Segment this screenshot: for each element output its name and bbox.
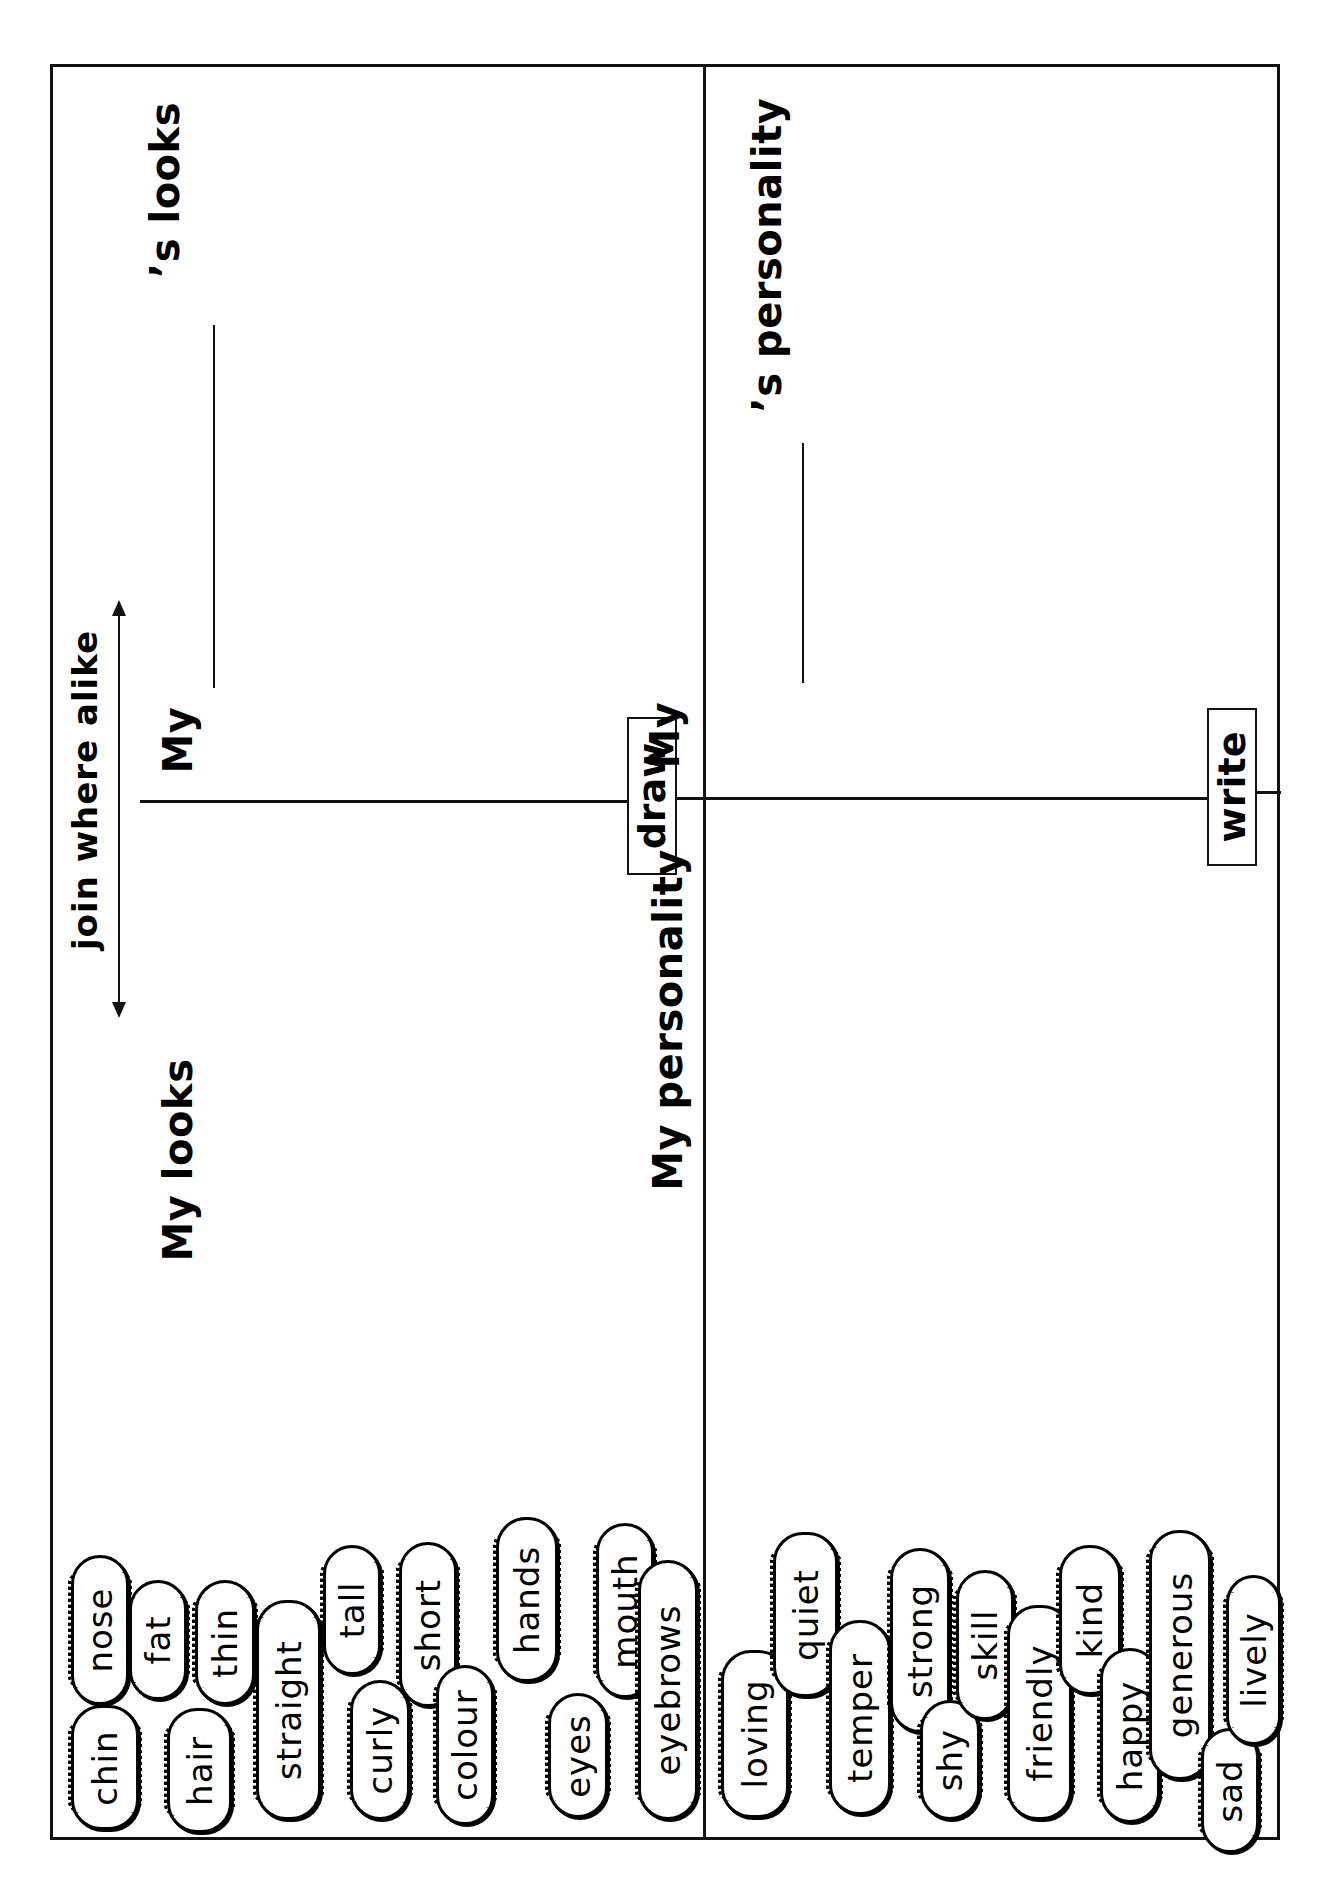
word-cloud-fat: fat — [129, 1580, 187, 1700]
other-looks-suffix: ’s looks — [145, 102, 185, 278]
word-cloud-colour: colour — [436, 1665, 494, 1825]
worksheet-page: join where alike My looks My ’s looks dr… — [0, 0, 1342, 1880]
word-cloud-curly: curly — [350, 1680, 410, 1820]
word-cloud-chin: chin — [71, 1705, 139, 1830]
word-cloud-skill: skill — [956, 1570, 1014, 1720]
word-cloud-tall: tall — [323, 1545, 381, 1675]
word-cloud-straight: straight — [256, 1600, 321, 1820]
word-cloud-hair: hair — [167, 1708, 232, 1833]
other-looks-prefix: My — [158, 707, 198, 774]
other-personality-suffix: ’s personality — [747, 98, 787, 413]
other-personality-prefix: My — [645, 702, 685, 769]
word-cloud-eyes: eyes — [548, 1693, 608, 1818]
panel-divider — [703, 64, 706, 1840]
other-looks-name-blank[interactable] — [213, 325, 215, 688]
double-arrow-shaft — [118, 612, 120, 1010]
other-personality-name-blank[interactable] — [802, 443, 804, 683]
word-cloud-shy: shy — [920, 1700, 980, 1820]
word-cloud-thin: thin — [195, 1580, 255, 1705]
join-where-alike-label: join where alike — [68, 630, 102, 950]
arrow-down-icon — [112, 1002, 126, 1018]
word-cloud-eyebrows: eyebrows — [638, 1560, 698, 1820]
word-cloud-sad: sad — [1201, 1728, 1259, 1853]
word-cloud-temper: temper — [829, 1620, 891, 1815]
looks-center-line — [140, 800, 630, 803]
word-cloud-lively: lively — [1226, 1575, 1281, 1745]
write-label-box: write — [1207, 708, 1257, 866]
my-looks-heading: My looks — [158, 1059, 198, 1262]
word-cloud-generous: generous — [1149, 1530, 1211, 1780]
my-personality-heading: My personality — [648, 849, 688, 1191]
personality-center-line-end — [1257, 791, 1281, 794]
write-label: write — [1213, 732, 1251, 843]
word-cloud-hands: hands — [496, 1517, 558, 1682]
word-cloud-nose: nose — [71, 1555, 129, 1705]
center-line-mid — [677, 797, 1207, 800]
